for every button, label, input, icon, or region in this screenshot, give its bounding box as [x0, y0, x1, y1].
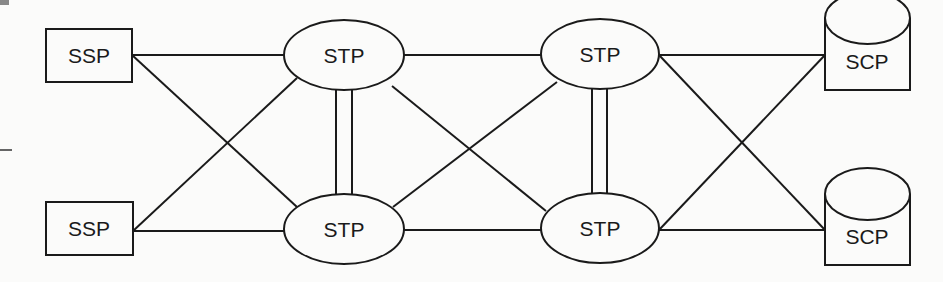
node-stp-a-bottom: STP — [284, 194, 404, 264]
node-label: SCP — [845, 50, 888, 73]
scp-cylinder-top — [825, 0, 910, 44]
link-stp-a-bottom-stp-b-top — [393, 82, 557, 207]
link-ssp-top-stp-a-bottom — [132, 55, 297, 207]
node-stp-a-top: STP — [284, 20, 404, 90]
node-label: SSP — [68, 44, 110, 67]
node-scp-top: SCP — [825, 0, 910, 90]
node-label: SCP — [845, 225, 888, 248]
node-stp-b-top: STP — [541, 19, 659, 89]
node-label: STP — [580, 43, 621, 66]
link-ssp-bottom-stp-a-top — [133, 78, 297, 231]
node-label: STP — [324, 218, 365, 241]
node-label: STP — [580, 217, 621, 240]
node-stp-b-bottom: STP — [541, 193, 659, 263]
node-scp-bottom: SCP — [825, 168, 910, 265]
node-label: SSP — [68, 217, 110, 240]
scp-cylinder-top — [825, 168, 910, 220]
node-ssp-top: SSP — [46, 29, 132, 82]
network-diagram: SSP SSP STP STP STP STP SCP SCP — [0, 0, 943, 282]
links — [132, 55, 825, 231]
node-ssp-bottom: SSP — [46, 202, 133, 255]
node-label: STP — [324, 44, 365, 67]
scan-artifact-corner — [0, 0, 9, 5]
